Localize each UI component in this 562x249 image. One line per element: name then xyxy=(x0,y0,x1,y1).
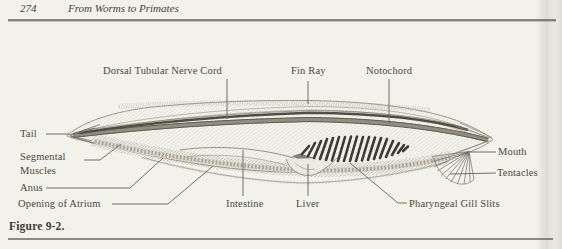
label-segmental-muscles: Segmental Muscles xyxy=(20,150,66,179)
label-mouth: Mouth xyxy=(498,146,527,158)
caption-rule xyxy=(8,238,553,240)
label-opening-of-atrium: Opening of Atrium xyxy=(18,198,100,210)
figure-caption: Figure 9-2. xyxy=(9,220,65,232)
label-tail: Tail xyxy=(20,128,37,140)
lancelet-illustration xyxy=(0,0,562,249)
label-dorsal-tubular-nerve-cord: Dorsal Tubular Nerve Cord xyxy=(103,65,222,77)
label-anus: Anus xyxy=(20,182,43,194)
label-segmental-muscles-line1: Segmental xyxy=(20,151,66,162)
lancelet-body xyxy=(67,100,493,184)
label-pharyngeal-gill-slits: Pharyngeal Gill Slits xyxy=(409,198,500,210)
label-fin-ray: Fin Ray xyxy=(291,65,326,77)
label-intestine: Intestine xyxy=(226,198,264,210)
label-notochord: Notochord xyxy=(366,65,412,77)
label-liver: Liver xyxy=(296,198,320,210)
label-segmental-muscles-line2: Muscles xyxy=(20,165,56,176)
label-tentacles: Tentacles xyxy=(497,167,538,179)
book-page: 274 From Worms to Primates xyxy=(0,0,562,249)
